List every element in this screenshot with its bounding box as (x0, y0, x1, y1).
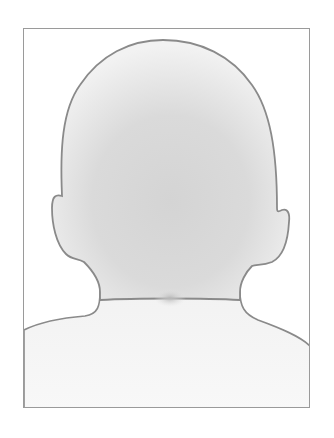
head-shape (52, 40, 289, 300)
neck-shadow (154, 289, 186, 307)
head-silhouette-illustration (0, 0, 334, 438)
